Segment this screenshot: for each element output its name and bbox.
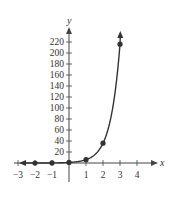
data-point — [83, 157, 88, 162]
curve-left-arrow-icon — [19, 160, 26, 166]
y-axis-arrow-icon — [66, 27, 72, 34]
y-tick-label: 80 — [55, 114, 65, 124]
data-point — [49, 160, 54, 165]
y-tick-label: 100 — [50, 103, 65, 113]
curve-up-arrow-icon — [117, 31, 123, 38]
data-point — [117, 42, 122, 47]
x-tick-label: −2 — [30, 170, 40, 180]
y-tick-label: 140 — [50, 81, 65, 91]
y-tick-label: 60 — [55, 125, 65, 135]
x-tick-label: −3 — [13, 170, 23, 180]
x-axis-label: x — [159, 157, 165, 168]
y-tick-label: 120 — [50, 92, 65, 102]
data-point — [66, 160, 71, 165]
x-tick-label: 2 — [101, 170, 106, 180]
y-axis-label: y — [66, 15, 72, 26]
y-tick-label: 160 — [50, 70, 65, 80]
x-axis-arrow-icon — [151, 160, 158, 166]
curve — [21, 44, 120, 163]
x-tick-label: 1 — [84, 170, 89, 180]
y-tick-label: 40 — [55, 136, 65, 146]
x-tick-label: 3 — [118, 170, 123, 180]
y-tick-label: 20 — [55, 147, 65, 157]
y-tick-label: 220 — [50, 37, 65, 47]
exponential-graph: xy−3−2−112342040608010012014016018020022… — [0, 0, 178, 203]
y-tick-label: 180 — [50, 59, 65, 69]
data-point — [32, 160, 37, 165]
plot-area: xy−3−2−112342040608010012014016018020022… — [0, 0, 178, 203]
x-tick-label: −1 — [47, 170, 57, 180]
data-point — [100, 141, 105, 146]
x-tick-label: 4 — [135, 170, 140, 180]
y-tick-label: 200 — [50, 48, 65, 58]
